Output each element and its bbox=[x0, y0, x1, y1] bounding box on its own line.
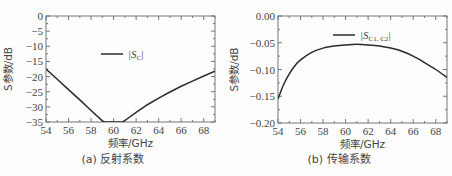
y-tick-label: −35 bbox=[26, 116, 44, 128]
x-tick-label: 62 bbox=[363, 125, 374, 137]
chart-b-caption: (b) 传输系数 bbox=[226, 150, 452, 166]
transmission-coefficient-chart: 54565860626466680.00−0.05−0.10−0.15−0.20… bbox=[226, 0, 452, 176]
x-tick-label: 64 bbox=[385, 125, 397, 137]
y-tick-label: −0.05 bbox=[250, 37, 276, 49]
data-series-line bbox=[46, 69, 215, 122]
x-tick-label: 68 bbox=[430, 125, 442, 137]
y-tick-label: −10 bbox=[26, 40, 44, 52]
y-tick-label: 0 bbox=[38, 10, 44, 22]
x-tick-label: 56 bbox=[295, 125, 307, 137]
x-tick-label: 62 bbox=[131, 124, 142, 136]
plot-frame bbox=[46, 16, 215, 122]
y-tick-label: −25 bbox=[26, 86, 44, 98]
chart-a-caption: (a) 反射系数 bbox=[0, 150, 226, 166]
x-tick-label: 58 bbox=[86, 124, 98, 136]
chart-b-plot: 54565860626466680.00−0.05−0.10−0.15−0.20… bbox=[226, 0, 452, 150]
data-series-line bbox=[278, 44, 447, 99]
x-tick-label: 56 bbox=[63, 124, 75, 136]
legend-label: |SC1, C2| bbox=[360, 29, 391, 43]
legend: |SC| bbox=[101, 48, 143, 62]
y-tick-label: −0.20 bbox=[250, 117, 276, 129]
legend-label: |SC| bbox=[128, 48, 143, 62]
y-tick-label: −20 bbox=[26, 71, 44, 83]
y-tick-label: −30 bbox=[26, 101, 44, 113]
y-tick-label: 0.00 bbox=[256, 10, 276, 22]
x-tick-label: 58 bbox=[318, 125, 330, 137]
y-tick-label: −0.10 bbox=[250, 64, 276, 76]
x-tick-label: 68 bbox=[198, 124, 210, 136]
x-tick-label: 66 bbox=[408, 125, 420, 137]
x-tick-label: 64 bbox=[153, 124, 165, 136]
y-tick-label: −5 bbox=[31, 25, 43, 37]
x-tick-label: 66 bbox=[176, 124, 188, 136]
y-axis-label: S参数/dB bbox=[2, 47, 14, 91]
x-tick-label: 60 bbox=[340, 125, 352, 137]
chart-a-plot: 54565860626466680−5−10−15−20−25−30−35频率/… bbox=[0, 0, 226, 150]
x-tick-label: 60 bbox=[108, 124, 120, 136]
x-axis-label: 频率/GHz bbox=[108, 137, 154, 149]
y-axis-label: S参数/dB bbox=[228, 47, 240, 91]
reflection-coefficient-chart: 54565860626466680−5−10−15−20−25−30−35频率/… bbox=[0, 0, 226, 176]
x-axis-label: 频率/GHz bbox=[340, 138, 386, 150]
y-tick-label: −15 bbox=[26, 55, 44, 67]
legend: |SC1, C2| bbox=[333, 29, 391, 43]
y-tick-label: −0.15 bbox=[250, 90, 276, 102]
